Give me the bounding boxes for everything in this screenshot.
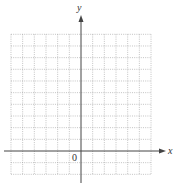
x-axis-arrow-icon [159,149,166,154]
coordinate-grid [0,0,173,188]
axes [4,15,166,183]
y-axis-label: y [77,3,81,13]
x-axis-label: x [168,146,172,156]
y-axis-arrow-icon [79,15,84,22]
origin-label: 0 [72,153,77,163]
